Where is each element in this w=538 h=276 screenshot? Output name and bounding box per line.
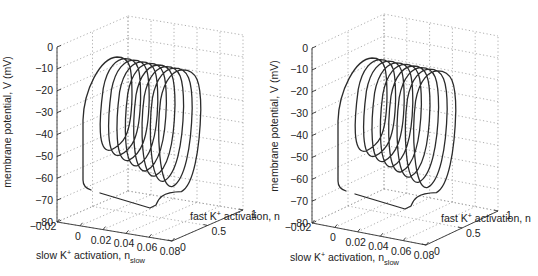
x-tick-label: 0.02 bbox=[91, 234, 112, 246]
z-tick-label: −30 bbox=[290, 107, 308, 119]
z-axis-label: membrane potential, V (mV) bbox=[268, 60, 280, 191]
figure: 0−10−20−30−40−50−60−70−80−0.0200.020.040… bbox=[0, 0, 538, 276]
z-tick-label: −20 bbox=[35, 84, 53, 96]
z-tick-label: −60 bbox=[290, 173, 308, 185]
plot-left: 0−10−20−30−40−50−60−70−80−0.0200.020.040… bbox=[1, 16, 280, 265]
y-tick-label: 0.5 bbox=[212, 225, 227, 237]
x-tick-label: 0.02 bbox=[345, 236, 366, 248]
z-tick-label: −70 bbox=[290, 195, 308, 207]
z-tick-label: 0 bbox=[302, 42, 308, 54]
x-axis-label: slow K+ activation, nslow bbox=[290, 251, 400, 267]
z-tick-label: −40 bbox=[35, 128, 53, 140]
z-tick-label: −10 bbox=[35, 62, 53, 74]
z-tick-label: −50 bbox=[290, 151, 308, 163]
trajectory bbox=[83, 57, 201, 208]
y-axis-label: fast K+ activation, n bbox=[190, 210, 280, 222]
x-tick-label: −0.02 bbox=[285, 221, 312, 233]
z-tick-label: 0 bbox=[47, 41, 53, 53]
z-tick-label: −30 bbox=[35, 106, 53, 118]
z-axis-label: membrane potential, V (mV) bbox=[1, 56, 13, 187]
z-tick-label: −70 bbox=[35, 194, 53, 206]
x-tick-label: −0.02 bbox=[30, 220, 57, 232]
z-tick-label: −40 bbox=[290, 129, 308, 141]
plot-right: 0−10−20−30−40−50−60−70−80−0.0200.020.040… bbox=[268, 14, 531, 267]
x-tick-label: 0 bbox=[330, 231, 336, 243]
y-tick-label: 0 bbox=[434, 245, 440, 257]
y-tick-label: 0.5 bbox=[466, 227, 481, 239]
z-tick-label: −20 bbox=[290, 85, 308, 97]
x-tick-label: 0.08 bbox=[414, 249, 435, 261]
z-tick-label: −10 bbox=[290, 63, 308, 75]
x-tick-label: 0.06 bbox=[391, 245, 412, 257]
x-tick-label: 0 bbox=[75, 230, 81, 242]
x-axis-label: slow K+ activation, nslow bbox=[36, 249, 146, 265]
z-tick-label: −50 bbox=[35, 150, 53, 162]
y-tick-label: 0 bbox=[180, 241, 186, 253]
x-tick-label: 0.04 bbox=[114, 237, 135, 249]
z-tick-label: −60 bbox=[35, 172, 53, 184]
y-axis-label: fast K+ activation, n bbox=[441, 212, 531, 224]
x-tick-label: 0.08 bbox=[160, 245, 181, 257]
x-tick-label: 0.06 bbox=[137, 241, 158, 253]
